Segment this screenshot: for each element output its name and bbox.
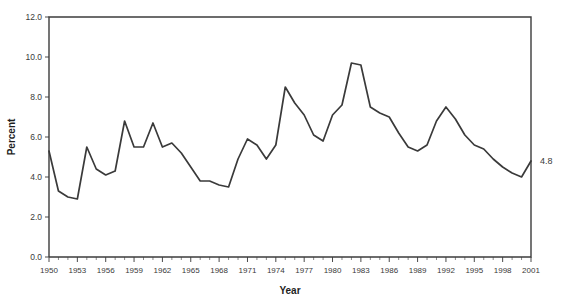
x-axis-tick-label: 1977 — [295, 266, 313, 275]
x-axis-tick-label: 1956 — [97, 266, 115, 275]
x-axis-tick-label: 1953 — [68, 266, 86, 275]
x-axis-tick-label: 1965 — [182, 266, 200, 275]
x-axis-tick-label: 1950 — [40, 266, 58, 275]
x-axis: 1950195319561959196219651968197119741977… — [40, 257, 540, 275]
x-axis-tick-label: 1992 — [437, 266, 455, 275]
y-axis-tick-label: 2.0 — [30, 212, 42, 222]
y-axis-tick-label: 0.0 — [30, 252, 42, 262]
x-axis-tick-label: 1989 — [409, 266, 427, 275]
x-axis-tick-label: 1962 — [154, 266, 172, 275]
x-axis-tick-label: 1959 — [125, 266, 143, 275]
x-axis-tick-label: 1986 — [380, 266, 398, 275]
chart-canvas: 0.02.04.06.08.010.012.0 1950195319561959… — [0, 0, 568, 300]
x-axis-tick-label: 2001 — [522, 266, 540, 275]
y-axis-title: Percent — [6, 118, 17, 155]
series-line-unemployment-rate — [49, 63, 531, 199]
chart-title-cropped — [0, 0, 568, 1]
x-axis-tick-label: 1980 — [324, 266, 342, 275]
x-axis-tick-label: 1974 — [267, 266, 285, 275]
x-axis-tick-label: 1968 — [210, 266, 228, 275]
y-axis-tick-label: 12.0 — [25, 12, 42, 22]
x-axis-tick-label: 1983 — [352, 266, 370, 275]
y-axis-tick-label: 6.0 — [30, 132, 42, 142]
x-axis-tick-label: 1971 — [239, 266, 257, 275]
y-axis-tick-label: 10.0 — [25, 52, 42, 62]
y-axis: 0.02.04.06.08.010.012.0 — [25, 12, 49, 262]
x-axis-tick-label: 1998 — [494, 266, 512, 275]
y-axis-tick-label: 8.0 — [30, 92, 42, 102]
unemployment-rate-line-chart: 0.02.04.06.08.010.012.0 1950195319561959… — [0, 0, 568, 300]
y-axis-tick-label: 4.0 — [30, 172, 42, 182]
x-axis-tick-label: 1995 — [465, 266, 483, 275]
x-axis-title: Year — [279, 285, 300, 296]
end-value-annotation: 4.8 — [540, 156, 553, 166]
